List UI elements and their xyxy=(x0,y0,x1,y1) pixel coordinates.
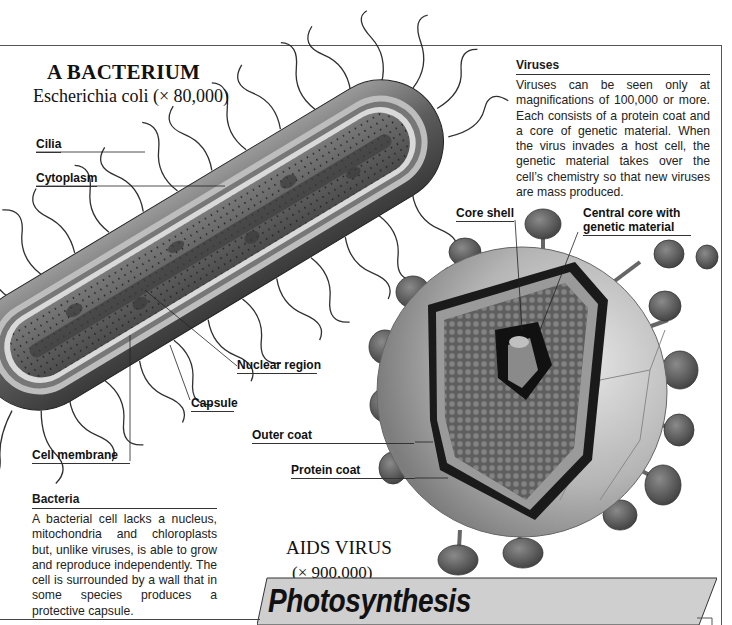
bacteria-info-box: Bacteria A bacterial cell lacks a nucleu… xyxy=(32,492,217,619)
bacterium-subtitle: Escherichia coli (× 80,000) xyxy=(33,86,229,107)
label-outer-coat: Outer coat xyxy=(252,428,414,444)
label-protein-coat: Protein coat xyxy=(291,463,415,479)
label-cytoplasm: Cytoplasm xyxy=(36,171,97,187)
label-capsule: Capsule xyxy=(191,396,234,412)
section-banner-title: Photosynthesis xyxy=(268,582,471,620)
bacteria-heading: Bacteria xyxy=(32,492,217,509)
bacterium-title: A BACTERIUM xyxy=(47,60,200,85)
viruses-info-box: Viruses Viruses can be seen only at magn… xyxy=(516,58,710,200)
bottom-rule xyxy=(0,619,260,620)
aids-virus-illustration xyxy=(369,209,718,575)
bacteria-body: A bacterial cell lacks a nucleus, mitoch… xyxy=(32,512,217,619)
label-nuclear-region: Nuclear region xyxy=(237,358,317,374)
virus-title: AIDS VIRUS xyxy=(286,537,392,559)
label-cell-membrane: Cell membrane xyxy=(32,448,130,464)
label-cilia: Cilia xyxy=(36,137,61,153)
viruses-heading: Viruses xyxy=(516,58,710,75)
label-central-core: Central core with genetic material xyxy=(583,206,691,236)
label-core-shell: Core shell xyxy=(456,206,514,222)
viruses-body: Viruses can be seen only at magnificatio… xyxy=(516,78,710,200)
